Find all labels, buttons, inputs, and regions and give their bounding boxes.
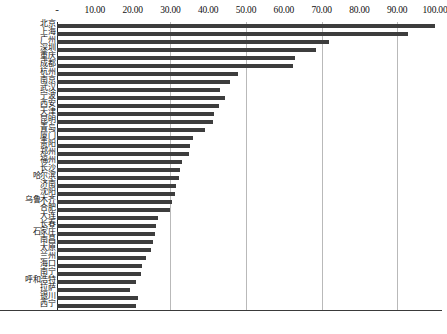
bar xyxy=(57,112,214,116)
bar xyxy=(57,48,316,52)
bar-row: 青岛 xyxy=(57,126,435,134)
bar-row: 重庆 xyxy=(57,54,435,62)
bar-row: 银川 xyxy=(57,294,435,302)
bar-row: 长春 xyxy=(57,222,435,230)
bar xyxy=(57,176,179,180)
bar-row: 南宁 xyxy=(57,270,435,278)
bar xyxy=(57,208,170,212)
x-tick-label-50: 50.00 xyxy=(236,5,256,15)
category-label: 西宁 xyxy=(40,300,55,308)
bar xyxy=(57,264,142,268)
bar xyxy=(57,280,136,284)
bar xyxy=(57,152,189,156)
bar-row: 呼和浩特 xyxy=(57,278,435,286)
bar xyxy=(57,224,156,228)
bar-row: 杭州 xyxy=(57,70,435,78)
x-tick-label-90: 90.00 xyxy=(387,5,407,15)
bar-row: 海口 xyxy=(57,262,435,270)
bar-row: 广州 xyxy=(57,38,435,46)
bar xyxy=(57,200,172,204)
x-tick-label-100: 100.00 xyxy=(423,5,447,15)
bar-row: 天津 xyxy=(57,110,435,118)
x-tick-label-80: 80.00 xyxy=(349,5,369,15)
bar xyxy=(57,24,435,28)
bar-row: 深圳 xyxy=(57,46,435,54)
bar xyxy=(57,96,225,100)
bar-row: 乌鲁木齐 xyxy=(57,198,435,206)
x-tick-label-70: 70.00 xyxy=(311,5,331,15)
bar-row: 福州 xyxy=(57,158,435,166)
bar xyxy=(57,288,130,292)
bar-row: 兰州 xyxy=(57,254,435,262)
x-tick-label-60: 60.00 xyxy=(274,5,294,15)
bar-row: 成都 xyxy=(57,62,435,70)
bar xyxy=(57,80,230,84)
bar xyxy=(57,216,158,220)
bar-row: 太原 xyxy=(57,246,435,254)
x-tick-label-10: 10.00 xyxy=(85,5,105,15)
bar xyxy=(57,144,190,148)
bar xyxy=(57,120,213,124)
plot-area: 北京上海广州深圳重庆成都杭州南京武汉宁波西安天津昆明青岛厦门贵阳郑州福州长沙哈尔… xyxy=(57,22,435,310)
bar-row: 哈尔滨 xyxy=(57,174,435,182)
x-tick-label-20: 20.00 xyxy=(122,5,142,15)
bar xyxy=(57,40,329,44)
bar xyxy=(57,184,176,188)
x-axis-tick-labels: -10.0020.0030.0040.0050.0060.0070.0080.0… xyxy=(0,0,442,22)
bar xyxy=(57,32,408,36)
bar-row: 拉萨 xyxy=(57,286,435,294)
bar xyxy=(57,128,205,132)
x-tick-label-30: 30.00 xyxy=(160,5,180,15)
bar xyxy=(57,304,136,308)
bar-row: 上海 xyxy=(57,30,435,38)
bar-row: 武汉 xyxy=(57,86,435,94)
bar-row: 南京 xyxy=(57,78,435,86)
bar-row: 西宁 xyxy=(57,302,435,310)
bar xyxy=(57,296,138,300)
bar-row: 石家庄 xyxy=(57,230,435,238)
bar xyxy=(57,104,219,108)
bar-row: 厦门 xyxy=(57,134,435,142)
bar-row: 西安 xyxy=(57,102,435,110)
bar xyxy=(57,160,182,164)
x-tick-label-40: 40.00 xyxy=(198,5,218,15)
bar xyxy=(57,256,146,260)
bar-row: 北京 xyxy=(57,22,435,30)
chart-bottom-border xyxy=(0,310,442,311)
bar-row: 长沙 xyxy=(57,166,435,174)
bar xyxy=(57,248,151,252)
bar xyxy=(57,72,238,76)
bar xyxy=(57,272,141,276)
bar xyxy=(57,136,193,140)
x-tick-label-0: - xyxy=(55,3,58,15)
bar xyxy=(57,168,180,172)
bar xyxy=(57,56,295,60)
bar xyxy=(57,232,155,236)
bar-row: 合肥 xyxy=(57,206,435,214)
bar xyxy=(57,64,293,68)
bar-row: 沈阳 xyxy=(57,190,435,198)
bar xyxy=(57,192,175,196)
bar-row: 宁波 xyxy=(57,94,435,102)
bar-row: 贵阳 xyxy=(57,142,435,150)
bar-row: 昆明 xyxy=(57,118,435,126)
bar-row: 南昌 xyxy=(57,238,435,246)
bar-row: 郑州 xyxy=(57,150,435,158)
bar-row: 大连 xyxy=(57,214,435,222)
bar xyxy=(57,88,220,92)
bar-row: 济南 xyxy=(57,182,435,190)
bar xyxy=(57,240,153,244)
